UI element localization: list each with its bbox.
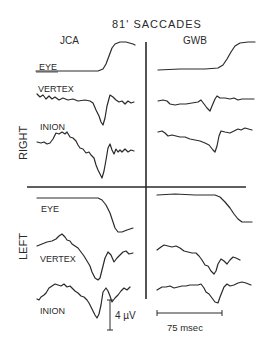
amplitude-scale-bar <box>107 300 113 330</box>
trace-left-gwb-vertex <box>157 245 240 274</box>
trace-right-jca-vertex <box>37 94 134 125</box>
trace-right-jca-inion <box>37 132 134 178</box>
channel-label-right-vertex: VERTEX <box>38 84 74 94</box>
trace-right-gwb-vertex <box>158 96 254 111</box>
figure-title: 81' SACCADES <box>112 18 202 30</box>
saccade-figure: 81' SACCADES JCA GWB RIGHT LEFT EYE VERT… <box>0 0 265 344</box>
amplitude-scale-label: 4 µV <box>115 310 136 321</box>
channel-label-left-vertex: VERTEX <box>40 254 76 264</box>
trace-left-gwb-eye <box>157 194 252 222</box>
channel-label-left-inion: INION <box>40 306 65 316</box>
condition-label-right: RIGHT <box>17 126 29 161</box>
trace-right-gwb-inion <box>158 128 252 152</box>
subject-label-gwb: GWB <box>183 35 207 46</box>
trace-right-gwb-eye <box>158 42 255 70</box>
channel-label-left-eye: EYE <box>41 204 59 214</box>
channel-label-right-inion: INION <box>40 122 65 132</box>
time-scale-bar <box>157 310 222 316</box>
condition-label-left: LEFT <box>17 233 29 260</box>
time-scale-label: 75 msec <box>167 322 203 333</box>
trace-left-gwb-inion <box>157 282 251 303</box>
subject-label-jca: JCA <box>60 35 79 46</box>
